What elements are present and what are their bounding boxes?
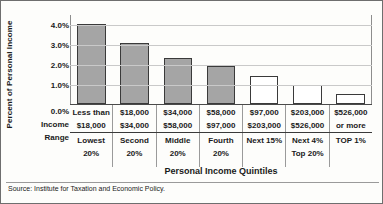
income-range-cell: $97,000$203,000 (243, 105, 286, 132)
category-table: Less than$18,000$18,000$34,000$34,000$58… (70, 105, 372, 167)
y-tick-label: 3.0% (51, 41, 69, 50)
y-tick-label: 2.0% (51, 61, 69, 70)
quintile-line1: TOP 1% (336, 136, 366, 145)
quintile-line1: Next 4% (292, 136, 323, 145)
bar-2 (120, 43, 148, 104)
quintile-line2: 20% (157, 147, 199, 160)
quintile-cell: Middle20% (157, 133, 200, 167)
income-range-cell: Less than$18,000 (70, 105, 113, 132)
bar-series (70, 15, 372, 104)
quintile-line2: 20% (200, 147, 242, 160)
income-range-line2: $97,000 (200, 119, 242, 132)
chart-figure: Percent of Personal Income 4.0%3.0%2.0%1… (0, 0, 383, 204)
row-header-labels: 0.0% Income Range (29, 105, 69, 144)
income-range-line1: $34,000 (163, 108, 192, 117)
bar-6 (293, 85, 321, 104)
quintile-line1: Lowest (77, 136, 105, 145)
quintile-line2: Top 20% (286, 147, 328, 160)
income-range-row: Less than$18,000$18,000$34,000$34,000$58… (70, 105, 372, 132)
income-range-line1: $97,000 (250, 108, 279, 117)
bar-5 (250, 76, 278, 104)
y-tick-label: 4.0% (51, 21, 69, 30)
source-note: Source: Institute for Taxation and Econo… (8, 185, 165, 192)
zero-tick-label: 0.0% (29, 105, 69, 118)
income-range-cell: $203,000$526,000 (286, 105, 329, 132)
table-divider (70, 132, 372, 133)
quintile-cell: Next 4%Top 20% (286, 133, 329, 167)
bar-7 (336, 94, 364, 104)
gridline (70, 25, 372, 26)
income-range-cell: $34,000$58,000 (157, 105, 200, 132)
quintile-cell: Fourth20% (200, 133, 243, 167)
quintile-line1: Next 15% (246, 136, 282, 145)
quintile-cell: Next 15% (243, 133, 286, 167)
quintile-line1: Second (120, 136, 149, 145)
quintile-cell: TOP 1% (330, 133, 372, 167)
gridline (70, 85, 372, 86)
gridline (70, 45, 372, 46)
y-tick-label: 1.0% (51, 81, 69, 90)
quintile-line1: Fourth (208, 136, 233, 145)
income-label: Income (29, 118, 69, 131)
income-range-line2: $34,000 (113, 119, 155, 132)
quintile-row: Lowest20%Second20%Middle20%Fourth20%Next… (70, 133, 372, 167)
quintile-cell: Second20% (113, 133, 156, 167)
y-axis-title-text: Percent of Personal Income (6, 20, 15, 128)
income-range-line1: $18,000 (120, 108, 149, 117)
quintile-line2: 20% (113, 147, 155, 160)
income-range-line2: $526,000 (286, 119, 328, 132)
y-axis-title: Percent of Personal Income (3, 11, 17, 137)
quintile-line2: 20% (70, 147, 112, 160)
income-range-line1: $526,000 (334, 108, 367, 117)
quintile-cell: Lowest20% (70, 133, 113, 167)
income-range-line1: Less than (72, 108, 109, 117)
gridline (70, 65, 372, 66)
income-range-line2: $203,000 (243, 119, 285, 132)
income-range-line2: $18,000 (70, 119, 112, 132)
y-axis-tick-labels: 4.0%3.0%2.0%1.0% (31, 15, 69, 105)
income-range-line1: $58,000 (207, 108, 236, 117)
source-divider (6, 182, 379, 183)
x-axis-title: Personal Income Quintiles (70, 166, 372, 176)
income-range-line2: or more (330, 119, 372, 132)
income-range-cell: $526,000or more (330, 105, 372, 132)
range-label: Range (29, 131, 69, 144)
income-range-cell: $58,000$97,000 (200, 105, 243, 132)
plot-area (70, 15, 372, 105)
quintile-line1: Middle (165, 136, 190, 145)
bar-1 (77, 24, 105, 104)
income-range-line2: $58,000 (157, 119, 199, 132)
income-range-cell: $18,000$34,000 (113, 105, 156, 132)
income-range-line1: $203,000 (291, 108, 324, 117)
